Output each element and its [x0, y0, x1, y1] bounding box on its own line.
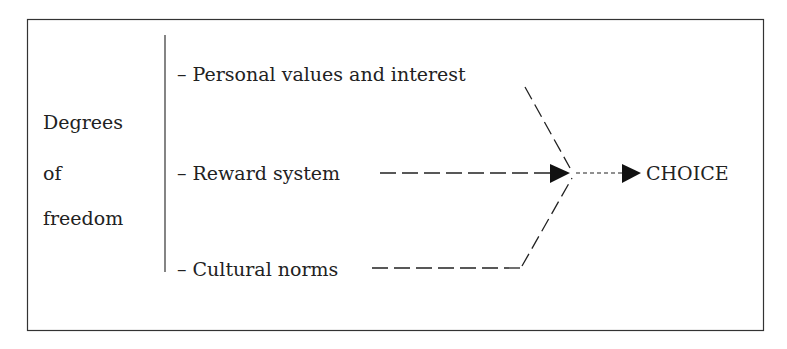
left-label-line-2: of — [43, 162, 63, 184]
arrowhead-icon — [550, 164, 570, 183]
factor-cultural-norms: – Cultural norms — [177, 258, 338, 280]
connector-personal-values — [525, 87, 570, 168]
outcome-choice: CHOICE — [646, 162, 729, 184]
connector-cultural-norms-diagonal — [522, 178, 572, 266]
left-label-line-3: freedom — [43, 207, 123, 229]
arrowhead-icon — [622, 164, 641, 183]
factor-reward-system: – Reward system — [177, 162, 340, 184]
left-label-line-1: Degrees — [43, 111, 123, 133]
factor-personal-values: – Personal values and interest — [177, 63, 466, 85]
decision-diagram: Degrees of freedom – Personal values and… — [0, 0, 787, 349]
